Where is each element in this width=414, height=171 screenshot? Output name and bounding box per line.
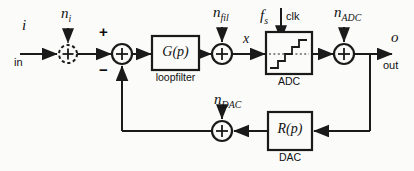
loopfilter-transfer-label: G(p) xyxy=(152,45,199,59)
dac-transfer-label: R(p) xyxy=(268,122,312,136)
figure-canvas: i in o out x ni nfil nADC nDAC fs clk G(… xyxy=(0,0,414,171)
noise-sub-n-adc: ADC xyxy=(342,12,362,23)
noise-base-n-fil: n xyxy=(213,4,221,20)
clock-label: clk xyxy=(286,11,299,22)
noise-base-n-adc: n xyxy=(334,4,342,20)
summer-error-plus-sign: + xyxy=(99,24,108,39)
adc-caption: ADC xyxy=(266,76,312,87)
noise-label-n-adc: nADC xyxy=(334,5,361,23)
clock-rate-label: fs xyxy=(260,8,268,26)
intermediate-signal-symbol: x xyxy=(243,32,249,46)
summer-error-minus-sign: − xyxy=(99,62,108,77)
dac-caption: DAC xyxy=(268,152,312,163)
noise-base-n-i: n xyxy=(61,5,69,21)
output-signal-name: out xyxy=(383,60,398,71)
noise-label-n-fil: nfil xyxy=(213,5,229,23)
noise-base-n-dac: n xyxy=(214,91,222,107)
clock-rate-sub: s xyxy=(264,15,268,26)
input-signal-name: in xyxy=(14,57,23,68)
input-signal-symbol: i xyxy=(22,18,26,33)
noise-sub-n-i: i xyxy=(69,13,72,24)
noise-label-n-dac: nDAC xyxy=(214,92,241,110)
block-diagram-svg xyxy=(0,0,414,171)
noise-sub-n-fil: fil xyxy=(221,12,229,23)
loopfilter-caption: loopfilter xyxy=(145,72,206,83)
noise-label-n-i: ni xyxy=(61,6,71,24)
output-signal-symbol: o xyxy=(391,30,399,45)
noise-sub-n-dac: DAC xyxy=(222,99,242,110)
